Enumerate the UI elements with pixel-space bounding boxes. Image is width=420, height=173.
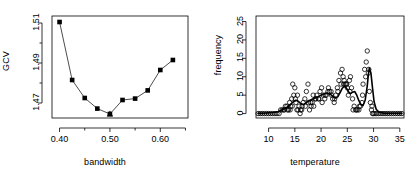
data-point-circle bbox=[364, 60, 368, 64]
gcv-bandwidth-panel: bandwidth GCV 0.400.500.601.471.491.51 bbox=[0, 0, 210, 173]
data-point-circle bbox=[319, 86, 323, 90]
y-tick-label: 25 bbox=[235, 8, 245, 34]
y-tick-label: 1.51 bbox=[31, 9, 41, 35]
data-point-circle bbox=[362, 67, 366, 71]
data-point-circle bbox=[304, 89, 308, 93]
data-point-square bbox=[120, 98, 125, 103]
data-point-square bbox=[158, 68, 163, 73]
data-point-square bbox=[95, 106, 100, 111]
series-line bbox=[60, 22, 173, 114]
data-point-square bbox=[145, 88, 150, 93]
data-point-circle bbox=[306, 82, 310, 86]
x-tick-label: 0.50 bbox=[93, 134, 127, 144]
x-tick-label: 0.40 bbox=[43, 134, 77, 144]
data-point-circle bbox=[350, 97, 354, 101]
y-tick-label: 1.47 bbox=[31, 89, 41, 115]
data-point-circle bbox=[293, 86, 297, 90]
x-axis-title-temperature: temperature bbox=[210, 157, 420, 167]
data-point-square bbox=[133, 96, 138, 101]
data-point-square bbox=[82, 96, 87, 101]
data-point-circle bbox=[360, 93, 364, 97]
data-point-circle bbox=[361, 82, 365, 86]
plot-frame bbox=[256, 16, 404, 118]
data-point-square bbox=[57, 20, 62, 25]
data-point-square bbox=[70, 78, 75, 83]
data-point-circle bbox=[340, 67, 344, 71]
data-point-circle bbox=[303, 97, 307, 101]
data-point-circle bbox=[367, 89, 371, 93]
x-axis-title-bandwidth: bandwidth bbox=[0, 157, 210, 167]
data-point-square bbox=[171, 58, 176, 63]
y-axis-title-frequency: frequency bbox=[213, 25, 223, 85]
y-axis-title-gcv: GCV bbox=[1, 31, 11, 91]
y-tick-label: 1.49 bbox=[31, 49, 41, 75]
x-tick-label: 0.60 bbox=[143, 134, 177, 144]
x-tick-label: 35 bbox=[383, 134, 417, 144]
data-point-circle bbox=[365, 49, 369, 53]
figure-root: bandwidth GCV 0.400.500.601.471.491.51 t… bbox=[0, 0, 420, 173]
frequency-temperature-panel: temperature frequency 101520253035051015… bbox=[210, 0, 420, 173]
data-point-circle bbox=[320, 100, 324, 104]
